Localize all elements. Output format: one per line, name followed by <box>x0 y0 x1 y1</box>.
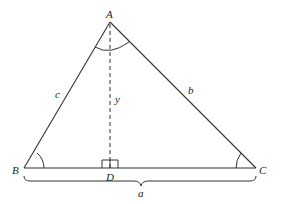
right-angle-mark <box>102 160 118 168</box>
vertex-label-d: D <box>105 171 114 183</box>
side-label-b: b <box>188 84 194 96</box>
altitude-label-y: y <box>114 93 120 105</box>
side-c <box>24 22 110 168</box>
vertex-label-a: A <box>105 8 113 20</box>
angle-arc-c <box>236 153 241 168</box>
triangle-diagram: A B C D c b y a <box>0 0 281 204</box>
vertex-label-c: C <box>259 164 267 176</box>
vertex-label-b: B <box>12 164 19 176</box>
side-label-a: a <box>138 187 144 199</box>
brace-a <box>24 176 256 186</box>
angle-arc-b <box>37 153 44 168</box>
side-label-c: c <box>55 88 60 100</box>
side-b <box>110 22 256 168</box>
angle-arc-a <box>95 42 129 51</box>
